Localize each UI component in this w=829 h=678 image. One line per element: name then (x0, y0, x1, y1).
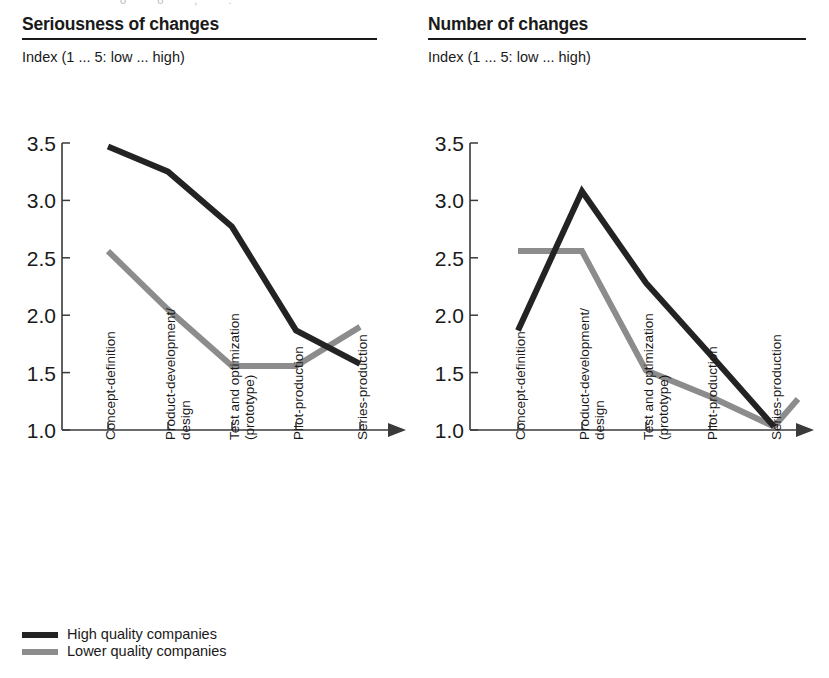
chart-panel-seriousness: Seriousness of changes Index (1 ... 5: l… (0, 0, 420, 620)
x-category-label-3: Pilot-production (291, 346, 306, 440)
y-tick-label-2.5: 2.5 (435, 247, 464, 270)
panel-subtitle: Index (1 ... 5: low ... high) (428, 48, 806, 66)
panel-subtitle: Index (1 ... 5: low ... high) (22, 48, 377, 66)
x-category-label-0: Concept-definition (513, 331, 528, 440)
chart-legend: High quality companies Lower quality com… (22, 626, 422, 660)
y-tick-label-3.5: 3.5 (435, 132, 464, 155)
x-category-label-1: Product-development/ design (163, 308, 193, 440)
page-title: Seriousness of changes (22, 14, 377, 34)
x-category-label-4: Series-production (355, 334, 370, 440)
legend-item-lower-quality: Lower quality companies (22, 643, 422, 660)
y-tick-label-1.0: 1.0 (27, 419, 56, 442)
y-tick-label-3.5: 3.5 (27, 132, 56, 155)
x-category-label-2: Test and optimization (prototype) (641, 313, 671, 440)
y-tick-label-3.0: 3.0 (435, 189, 464, 212)
x-category-label-3: Pilot-production (705, 346, 720, 440)
x-category-label-1: Product-development/ design (577, 308, 607, 440)
chart-svg-seriousness: 1.0 1.5 2.0 2.5 3.0 3.5 (0, 100, 420, 500)
chart-panel-number: Number of changes Index (1 ... 5: low ..… (420, 0, 829, 620)
y-tick-label-2.0: 2.0 (435, 304, 464, 327)
legend-swatch-lower-quality-icon (22, 649, 58, 655)
x-axis-arrow (388, 423, 406, 437)
chart-svg-number: 1.0 1.5 2.0 2.5 3.0 3.5 (420, 100, 829, 500)
panel-header: Number of changes Index (1 ... 5: low ..… (428, 14, 806, 66)
x-axis-arrow (796, 423, 814, 437)
y-tick-label-1.0: 1.0 (435, 419, 464, 442)
x-category-label-2: Test and optimization (prototype) (227, 313, 257, 440)
x-category-label-0: Concept-definition (103, 331, 118, 440)
y-tick-label-2.0: 2.0 (27, 304, 56, 327)
y-tick-label-3.0: 3.0 (27, 189, 56, 212)
legend-label-high-quality: High quality companies (67, 626, 217, 643)
plot-area-number: 1.0 1.5 2.0 2.5 3.0 3.5 Concept-definiti… (420, 100, 829, 620)
title-divider (428, 38, 806, 40)
y-tick-label-1.5: 1.5 (27, 362, 56, 385)
y-tick-label-2.5: 2.5 (27, 247, 56, 270)
y-tick-label-1.5: 1.5 (435, 362, 464, 385)
plot-area-seriousness: 1.0 1.5 2.0 2.5 3.0 3.5 Concept-definiti… (0, 100, 420, 620)
legend-label-lower-quality: Lower quality companies (67, 643, 227, 660)
title-divider (22, 38, 377, 40)
legend-item-high-quality: High quality companies (22, 626, 422, 643)
page-title: Number of changes (428, 14, 806, 34)
panel-header: Seriousness of changes Index (1 ... 5: l… (22, 14, 377, 66)
x-category-label-4: Series-production (769, 334, 784, 440)
legend-swatch-high-quality-icon (22, 632, 58, 638)
